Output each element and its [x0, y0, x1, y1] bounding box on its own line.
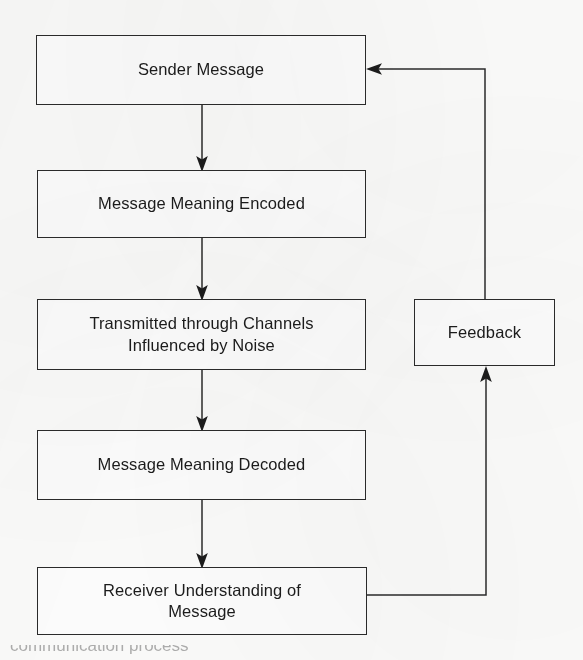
node-sender-message[interactable]: Sender Message [36, 35, 366, 105]
node-message-meaning-decoded[interactable]: Message Meaning Decoded [37, 430, 366, 500]
node-label: Message Meaning Encoded [92, 193, 311, 214]
diagram-canvas: Sender Message Message Meaning Encoded T… [0, 0, 583, 660]
edge-encoded-to-transmitted [196, 238, 208, 301]
node-label: Receiver Understanding of Message [97, 580, 307, 622]
node-feedback[interactable]: Feedback [414, 299, 555, 366]
figure-caption-text: communication process [10, 645, 430, 656]
edge-decoded-to-receiver [196, 500, 208, 569]
node-label: Sender Message [132, 59, 270, 80]
node-message-meaning-encoded[interactable]: Message Meaning Encoded [37, 170, 366, 238]
node-label: Transmitted through Channels Influenced … [83, 313, 319, 355]
node-label: Feedback [442, 322, 527, 343]
node-label: Message Meaning Decoded [92, 454, 312, 475]
node-receiver-understanding[interactable]: Receiver Understanding of Message [37, 567, 367, 635]
edge-feedback-to-sender [366, 63, 485, 299]
figure-caption-cropped: communication process [10, 645, 430, 660]
edge-sender-to-encoded [196, 105, 208, 172]
edge-transmitted-to-decoded [196, 370, 208, 432]
edge-receiver-to-feedback [367, 366, 492, 595]
node-transmitted-through-channels[interactable]: Transmitted through Channels Influenced … [37, 299, 366, 370]
